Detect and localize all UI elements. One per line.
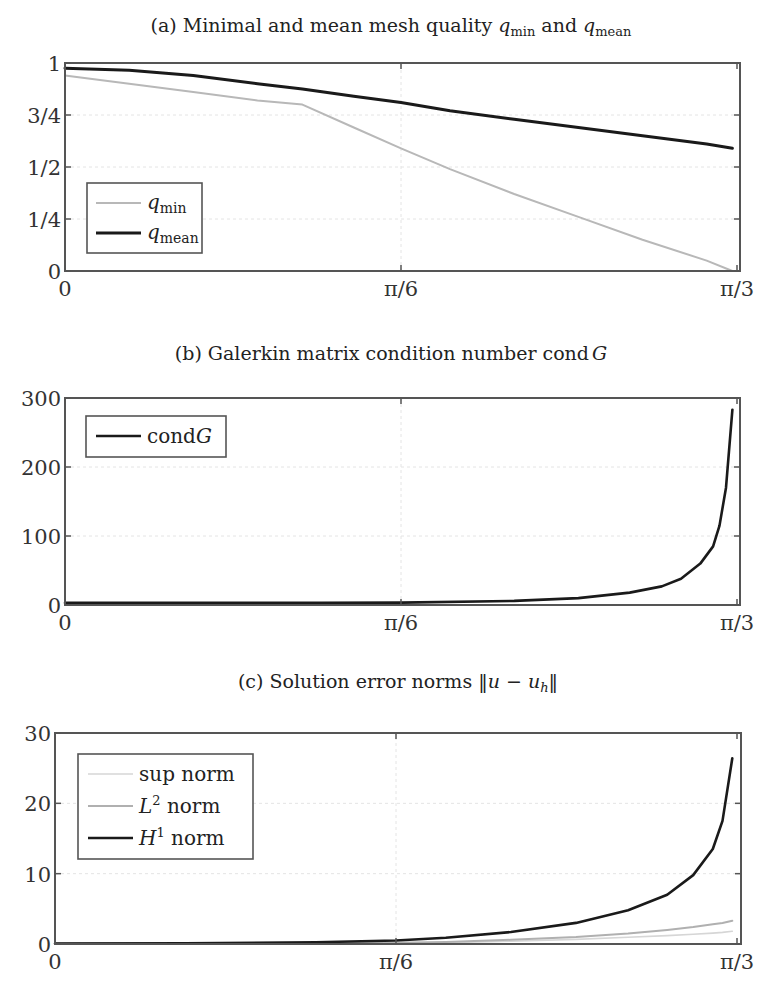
panel-a-title: (a) Minimal and mean mesh quality qmin a… bbox=[151, 14, 633, 39]
x-tick-label: π/3 bbox=[720, 277, 754, 301]
panel-a-legend: qmin qmean bbox=[87, 183, 202, 253]
y-tick-label: 300 bbox=[21, 387, 61, 411]
y-tick-label: 200 bbox=[21, 456, 61, 480]
y-tick-label: 1/4 bbox=[27, 208, 61, 232]
x-tick-label: 0 bbox=[58, 277, 71, 301]
legend-label-condg: condG bbox=[147, 424, 212, 448]
panel-b-title: (b) Galerkin matrix condition number con… bbox=[175, 342, 607, 364]
figure: (a) Minimal and mean mesh quality qmin a… bbox=[0, 0, 781, 1004]
legend-label-h1: H1 norm bbox=[138, 825, 225, 850]
panel-b: (b) Galerkin matrix condition number con… bbox=[21, 342, 754, 635]
y-tick-label: 100 bbox=[21, 525, 61, 549]
panel-b-legend: condG bbox=[86, 416, 226, 457]
y-tick-label: 30 bbox=[24, 722, 51, 746]
y-tick-label: 1 bbox=[48, 52, 61, 76]
legend-label-sup: sup norm bbox=[139, 762, 235, 786]
panel-a-plot: 01/41/23/410π/6π/3 bbox=[27, 52, 754, 301]
x-tick-label: π/6 bbox=[384, 277, 418, 301]
x-tick-label: π/3 bbox=[720, 611, 754, 635]
panel-c-title: (c) Solution error norms ‖u − uh‖ bbox=[238, 670, 558, 695]
x-tick-label: 0 bbox=[48, 950, 61, 974]
y-tick-label: 10 bbox=[24, 863, 51, 887]
panel-a: (a) Minimal and mean mesh quality qmin a… bbox=[27, 14, 754, 301]
series-line-q_mean bbox=[65, 68, 732, 148]
y-tick-label: 1/2 bbox=[27, 156, 61, 180]
x-tick-label: π/6 bbox=[384, 611, 418, 635]
y-tick-label: 20 bbox=[24, 792, 51, 816]
legend-label-l2: L2 norm bbox=[138, 793, 220, 818]
y-tick-label: 3/4 bbox=[27, 104, 61, 128]
x-tick-label: π/6 bbox=[379, 950, 413, 974]
x-tick-label: π/3 bbox=[720, 950, 754, 974]
panel-c: (c) Solution error norms ‖u − uh‖ 010203… bbox=[24, 670, 754, 974]
x-tick-label: 0 bbox=[58, 611, 71, 635]
panel-c-legend: sup norm L2 norm H1 norm bbox=[78, 754, 253, 859]
